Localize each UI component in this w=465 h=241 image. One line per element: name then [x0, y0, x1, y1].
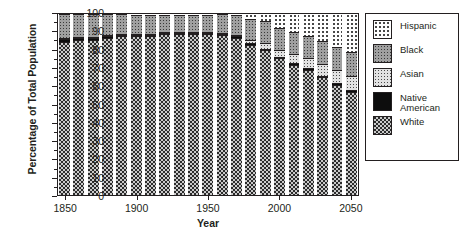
y-tick-label-60: 60 — [92, 80, 104, 92]
bar-1890 — [116, 14, 127, 195]
segment-white — [231, 38, 242, 195]
legend: HispanicBlackAsianNativeAmericanWhite — [365, 13, 459, 161]
x-tick-label-2000: 2000 — [268, 202, 291, 214]
segment-asian — [317, 64, 328, 76]
y-tick-label-100: 100 — [86, 7, 104, 19]
y-tick-label-40: 40 — [92, 117, 104, 129]
segment-black — [174, 15, 185, 33]
legend-item-asian[interactable]: Asian — [373, 68, 458, 87]
y-axis-label: Percentage of Total Population — [26, 4, 38, 194]
legend-item-black[interactable]: Black — [373, 44, 458, 63]
x-tick-label-1950: 1950 — [196, 202, 219, 214]
segment-black — [332, 47, 343, 70]
legend-label-black: Black — [400, 44, 423, 55]
segment-black — [289, 32, 300, 54]
y-tick-mark-30 — [52, 141, 57, 142]
segment-asian — [332, 70, 343, 83]
segment-white — [245, 45, 256, 195]
segment-black — [303, 36, 314, 59]
segment-black — [231, 15, 242, 35]
x-tick-label-1850: 1850 — [53, 202, 76, 214]
bar-1990 — [260, 14, 271, 195]
bar-2030 — [317, 14, 328, 195]
segment-white — [217, 35, 228, 195]
y-tick-label-90: 90 — [92, 25, 104, 37]
legend-swatch-asian — [373, 68, 392, 87]
segment-white — [145, 36, 156, 195]
legend-item-hispanic[interactable]: Hispanic — [373, 20, 458, 39]
segment-white — [346, 92, 357, 195]
segment-asian — [303, 58, 314, 68]
y-tick-label-70: 70 — [92, 62, 104, 74]
bar-1900 — [131, 14, 142, 195]
y-tick-mark-20 — [52, 159, 57, 160]
segment-white — [260, 50, 271, 195]
legend-item-white[interactable]: White — [373, 116, 458, 135]
segment-white — [289, 65, 300, 195]
bar-2010 — [289, 14, 300, 195]
segment-hispanic — [303, 14, 314, 36]
bar-2040 — [332, 14, 343, 195]
legend-swatch-white — [373, 116, 392, 135]
y-minor-tick-65 — [54, 77, 57, 78]
legend-swatch-native — [373, 92, 392, 111]
y-tick-mark-50 — [52, 105, 57, 106]
segment-black — [217, 14, 228, 33]
y-tick-mark-60 — [52, 86, 57, 87]
y-minor-tick-95 — [54, 22, 57, 23]
y-tick-mark-70 — [52, 68, 57, 69]
y-tick-label-80: 80 — [92, 44, 104, 56]
y-minor-tick-85 — [54, 40, 57, 41]
segment-black — [274, 28, 285, 50]
x-tick-mark-1850 — [65, 196, 66, 200]
y-tick-mark-90 — [52, 31, 57, 32]
legend-swatch-hispanic — [373, 20, 392, 39]
y-tick-label-0: 0 — [98, 190, 104, 202]
y-tick-label-50: 50 — [92, 99, 104, 111]
segment-white — [274, 58, 285, 195]
segment-white — [131, 36, 142, 195]
segment-hispanic — [332, 14, 343, 47]
segment-black — [317, 41, 328, 64]
x-tick-mark-1950 — [208, 196, 209, 200]
segment-white — [202, 34, 213, 195]
segment-asian — [289, 54, 300, 63]
segment-black — [145, 15, 156, 34]
segment-white — [73, 40, 84, 195]
bar-1970 — [231, 14, 242, 195]
y-minor-tick-75 — [54, 59, 57, 60]
segment-black — [188, 15, 199, 33]
y-tick-label-10: 10 — [92, 172, 104, 184]
legend-label-asian: Asian — [400, 68, 424, 79]
y-minor-tick-5 — [54, 187, 57, 188]
y-tick-label-20: 20 — [92, 153, 104, 165]
y-minor-tick-25 — [54, 150, 57, 151]
legend-swatch-black — [373, 44, 392, 63]
x-tick-mark-2000 — [279, 196, 280, 200]
segment-black — [260, 21, 271, 43]
bar-1860 — [73, 14, 84, 195]
bar-2050 — [346, 14, 357, 195]
segment-white — [303, 70, 314, 195]
segment-white — [188, 34, 199, 195]
segment-black — [59, 14, 70, 38]
chart-figure: Percentage of Total Population 010203040… — [0, 0, 465, 241]
legend-item-native[interactable]: NativeAmerican — [373, 92, 458, 111]
bar-1930 — [174, 14, 185, 195]
segment-black — [73, 14, 84, 37]
bar-2020 — [303, 14, 314, 195]
y-minor-tick-15 — [54, 169, 57, 170]
segment-black — [202, 15, 213, 33]
bar-1920 — [159, 14, 170, 195]
legend-label-hispanic: Hispanic — [400, 20, 436, 31]
y-minor-tick-55 — [54, 95, 57, 96]
y-tick-label-30: 30 — [92, 135, 104, 147]
segment-black — [346, 52, 357, 76]
y-minor-tick-45 — [54, 114, 57, 115]
segment-hispanic — [289, 14, 300, 32]
segment-black — [116, 14, 127, 34]
segment-white — [317, 77, 328, 195]
segment-white — [59, 42, 70, 195]
segment-hispanic — [260, 14, 271, 21]
x-tick-label-2050: 2050 — [339, 202, 362, 214]
